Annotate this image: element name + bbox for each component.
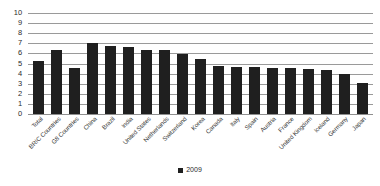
x-axis-tick-label: China (82, 115, 98, 131)
bar-slot (174, 13, 192, 114)
y-axis-tick-label: 4 (18, 70, 22, 78)
bar[interactable] (51, 50, 62, 114)
bar-slot (192, 13, 210, 114)
x-axis-tick-label: Total (30, 115, 44, 129)
x-label-slot: Switzerland (174, 114, 192, 162)
x-axis-tick-label: India (119, 115, 133, 129)
bar-slot (66, 13, 84, 114)
x-label-slot: Brazil (102, 114, 120, 162)
bar-slot (102, 13, 120, 114)
bar-slot (245, 13, 263, 114)
y-axis-tick-label: 10 (14, 9, 22, 17)
bars-layer (28, 13, 373, 114)
bar-slot (120, 13, 138, 114)
bar[interactable] (123, 47, 134, 114)
y-axis-tick-label: 9 (18, 19, 22, 27)
legend-square-marker-icon (178, 168, 183, 173)
bar[interactable] (285, 68, 296, 114)
bar-slot (84, 13, 102, 114)
legend-label: 2009 (186, 166, 202, 174)
x-axis-tick-label: Brazil (100, 115, 116, 131)
bar[interactable] (69, 68, 80, 114)
bar[interactable] (231, 67, 242, 114)
y-axis-tick-label: 7 (18, 39, 22, 47)
chart-legend: 2009 (0, 166, 380, 174)
x-axis-tick-label: Italy (229, 115, 242, 128)
x-label-slot: Japan (353, 114, 371, 162)
bar-chart: 109876543210 TotalBRIC CountriesG8 Count… (0, 0, 380, 186)
y-axis-tick-label: 2 (18, 90, 22, 98)
bar-slot (30, 13, 48, 114)
x-label-slot: Spain (245, 114, 263, 162)
bar[interactable] (141, 50, 152, 114)
bar[interactable] (105, 46, 116, 114)
bar[interactable] (195, 59, 206, 114)
bar[interactable] (303, 69, 314, 114)
bar-slot (263, 13, 281, 114)
bar-slot (317, 13, 335, 114)
x-label-slot: Germany (335, 114, 353, 162)
x-label-slot: Austria (263, 114, 281, 162)
bar[interactable] (321, 70, 332, 114)
bar-slot (48, 13, 66, 114)
y-axis: 109876543210 (0, 13, 26, 114)
bar[interactable] (267, 68, 278, 114)
bar-slot (353, 13, 371, 114)
x-axis-tick-label: Spain (243, 115, 259, 131)
x-label-slot: Italy (227, 114, 245, 162)
x-label-slot: G8 Countries (66, 114, 84, 162)
x-label-slot: China (84, 114, 102, 162)
x-axis-tick-label: Japan (350, 115, 367, 132)
x-label-slot: United Kingdom (299, 114, 317, 162)
bar-slot (138, 13, 156, 114)
bar-slot (210, 13, 228, 114)
x-label-slot: Korea (192, 114, 210, 162)
y-axis-tick-label: 0 (18, 110, 22, 118)
bar[interactable] (159, 50, 170, 114)
bar[interactable] (357, 83, 368, 114)
bar[interactable] (339, 74, 350, 114)
bar-slot (156, 13, 174, 114)
bar[interactable] (177, 54, 188, 114)
bar[interactable] (213, 66, 224, 114)
y-axis-tick-label: 8 (18, 29, 22, 37)
bar-slot (281, 13, 299, 114)
bar[interactable] (87, 43, 98, 114)
y-axis-tick-label: 3 (18, 80, 22, 88)
bar-slot (299, 13, 317, 114)
y-axis-tick-label: 6 (18, 49, 22, 57)
x-label-slot: Iceland (317, 114, 335, 162)
x-label-slot: Canada (210, 114, 228, 162)
bar-slot (227, 13, 245, 114)
x-axis: TotalBRIC CountriesG8 CountriesChinaBraz… (28, 114, 373, 162)
y-axis-tick-label: 1 (18, 100, 22, 108)
x-axis-tick-label: Korea (189, 115, 205, 131)
bar-slot (335, 13, 353, 114)
y-axis-tick-label: 5 (18, 60, 22, 68)
bar[interactable] (249, 67, 260, 114)
bar[interactable] (33, 61, 44, 114)
